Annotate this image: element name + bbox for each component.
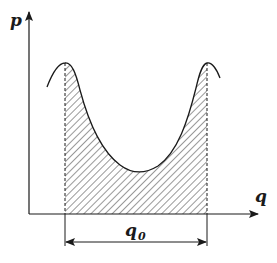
y-axis-label: p bbox=[10, 10, 22, 30]
q0-label-subscript: 0 bbox=[138, 230, 146, 243]
x-axis-label: q bbox=[255, 186, 267, 206]
hatched-area bbox=[65, 63, 207, 214]
diagram-canvas: p q q0 bbox=[0, 0, 277, 263]
q0-label: q0 bbox=[125, 220, 146, 243]
q0-label-main: q bbox=[125, 220, 137, 240]
